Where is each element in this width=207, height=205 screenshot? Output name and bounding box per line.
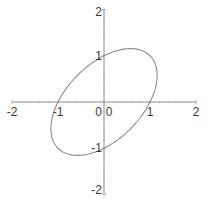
x-tick-label: 0 — [106, 105, 113, 119]
y-tick-label: 0 — [95, 105, 102, 119]
x-tick-label: -1 — [53, 105, 64, 119]
ticks — [12, 10, 196, 195]
y-tick-label: -1 — [91, 141, 102, 155]
y-tick-label: 2 — [95, 5, 102, 19]
x-tick-label: 1 — [147, 105, 154, 119]
x-tick-label: -2 — [7, 105, 18, 119]
y-tick-label: -2 — [91, 183, 102, 197]
tick-labels: -2-1012-2-1012 — [7, 5, 200, 197]
x-tick-label: 2 — [193, 105, 200, 119]
chart: -2-1012-2-1012 — [0, 0, 207, 205]
y-tick-label: 1 — [95, 49, 102, 63]
